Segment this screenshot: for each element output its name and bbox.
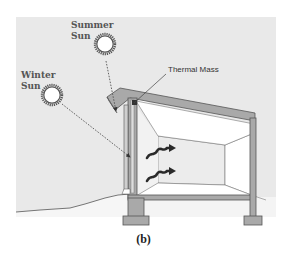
figure-caption: (b) — [0, 232, 287, 247]
summer-sun-label-line1: Summer — [71, 20, 114, 30]
glazing — [131, 100, 134, 193]
right-column — [250, 118, 256, 218]
winter-sun-label-line2: Sun — [21, 81, 41, 91]
floor-slab — [128, 195, 255, 200]
left-pier — [128, 198, 144, 217]
summer-sun-label-line2: Sun — [71, 31, 91, 41]
glazing-frame — [124, 105, 128, 193]
thermal-mass-label: Thermal Mass — [168, 65, 219, 74]
right-footing — [244, 216, 262, 225]
passive-solar-diagram: Summer Sun Winter Sun Thermal Mass — [0, 0, 287, 266]
left-footing — [123, 216, 149, 225]
winter-sun-label-line1: Winter — [20, 70, 56, 80]
